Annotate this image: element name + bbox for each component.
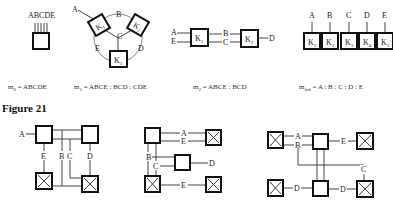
mind-label-e: E bbox=[382, 11, 387, 20]
bl-label-c: C bbox=[67, 152, 72, 161]
m2-diagram: A E K1 B C K2 D bbox=[171, 28, 275, 47]
m2-label-b: B bbox=[223, 29, 228, 38]
formula-m0: m0 = ABCDE bbox=[8, 83, 47, 92]
bl-label-b: B bbox=[59, 152, 64, 161]
bm-label-e-bottom: E bbox=[181, 181, 186, 190]
bl-node-top-left bbox=[36, 126, 52, 143]
m2-label-e: E bbox=[171, 37, 176, 46]
br-node-bottom-right bbox=[357, 181, 373, 197]
bottom-right-diagram: A B C E D D bbox=[268, 131, 373, 197]
br-node-bottom-center bbox=[313, 181, 328, 196]
bl-label-e: E bbox=[41, 152, 46, 161]
formula-m1: m1 = ABCE : BCD : CDE bbox=[74, 83, 147, 92]
m1-label-b: B bbox=[116, 10, 121, 19]
br-label-d-right: D bbox=[340, 185, 346, 194]
br-label-a: A bbox=[295, 132, 301, 141]
m1-label-a: A bbox=[72, 5, 78, 14]
formula-row: m0 = ABCDE m1 = ABCE : BCD : CDE m2 = AB… bbox=[8, 83, 363, 92]
bl-label-a: A bbox=[19, 130, 25, 139]
m0-terminal-labels: ABCDE bbox=[28, 11, 55, 20]
br-node-top-left bbox=[268, 132, 283, 148]
bm-node-bottom-right bbox=[206, 177, 221, 192]
bm-label-c: C bbox=[153, 162, 158, 171]
br-node-top-right bbox=[357, 133, 373, 149]
mind-diagram: A B C D E K1 K2 K3 K4 K5 bbox=[304, 11, 393, 49]
br-label-e: E bbox=[341, 137, 346, 146]
mind-label-b: B bbox=[327, 11, 332, 20]
figure-label: Figure 21 bbox=[2, 102, 47, 114]
m2-label-d: D bbox=[269, 34, 275, 43]
br-label-d-left: D bbox=[294, 184, 300, 193]
bm-label-e-top: E bbox=[181, 137, 186, 146]
bl-label-d: D bbox=[87, 152, 93, 161]
bottom-middle-diagram: A E B C D E bbox=[145, 128, 221, 192]
br-node-top-center bbox=[313, 134, 328, 149]
m1-diagram: A B C D E K1 K2 K3 bbox=[72, 5, 149, 67]
m0-diagram: ABCDE bbox=[28, 11, 55, 49]
m2-label-a: A bbox=[171, 28, 177, 37]
figure-21-diagram: ABCDE A B C D E K1 K2 K3 A E bbox=[0, 0, 393, 205]
bm-node-center bbox=[175, 155, 190, 170]
m2-label-c: C bbox=[223, 38, 228, 47]
bm-node-top-right bbox=[206, 130, 221, 145]
mind-label-a: A bbox=[309, 11, 315, 20]
formula-m2: m2 = ABCE : BCD bbox=[193, 83, 247, 92]
bm-label-d: D bbox=[209, 159, 215, 168]
br-label-c: C bbox=[361, 165, 366, 174]
bl-node-top-right bbox=[82, 126, 98, 143]
mind-label-d: D bbox=[364, 11, 370, 20]
bm-node-top-left bbox=[145, 128, 160, 143]
mind-label-c: C bbox=[346, 11, 351, 20]
bm-node-bottom-left bbox=[145, 176, 160, 192]
m1-label-e: E bbox=[95, 44, 100, 53]
m1-label-d: D bbox=[138, 44, 144, 53]
bl-node-bottom-left bbox=[36, 173, 52, 189]
bottom-left-diagram: A E B C D bbox=[19, 126, 98, 192]
m0-box bbox=[33, 33, 49, 49]
bm-label-b: B bbox=[146, 153, 151, 162]
br-node-bottom-left bbox=[268, 180, 283, 196]
bl-node-bottom-right bbox=[82, 176, 98, 192]
formula-mind: mind = A : B : C : D : E bbox=[299, 83, 363, 92]
